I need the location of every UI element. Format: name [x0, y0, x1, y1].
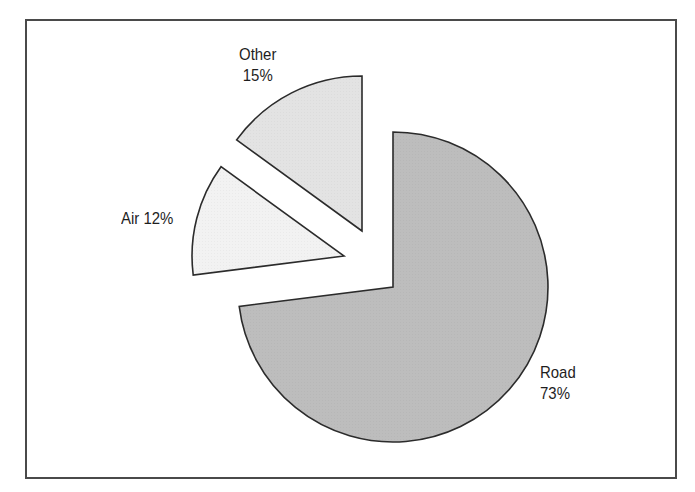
slice-label-other: Other 15% [239, 44, 276, 86]
slice-label-road-name: Road [540, 362, 576, 383]
slice-label-road: Road 73% [540, 362, 576, 404]
slice-label-air-text: Air 12% [121, 208, 173, 229]
slice-label-road-pct: 73% [540, 383, 576, 404]
pie-chart [0, 0, 695, 492]
slice-label-other-name: Other [239, 44, 276, 65]
slice-label-air: Air 12% [121, 208, 173, 229]
pie-slice-road-texture [239, 132, 548, 442]
slice-label-other-pct: 15% [239, 65, 276, 86]
